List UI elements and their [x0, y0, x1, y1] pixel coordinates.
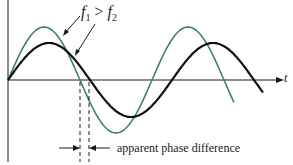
phase-difference-label: apparent phase difference [117, 141, 240, 156]
dimension-arrow-left-icon [73, 145, 80, 151]
f2-subscript: 2 [112, 12, 117, 23]
greater-than-operator: > [90, 3, 107, 20]
frequency-annotation: f1 > f2 [81, 3, 117, 23]
time-axis-arrow-icon [276, 77, 284, 83]
pointer-line-f2 [76, 24, 95, 54]
time-axis-label: t [284, 71, 287, 86]
pointer-arrow-f2-icon [75, 49, 80, 56]
dimension-arrow-right-icon [89, 145, 96, 151]
